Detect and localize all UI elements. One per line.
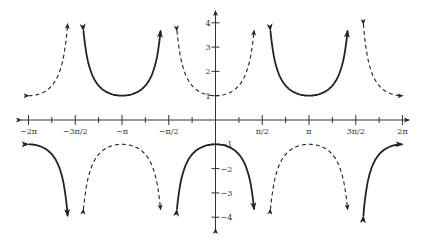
y-tick-label: −2 xyxy=(221,165,233,174)
x-tick-label: −π/2 xyxy=(159,127,179,136)
y-tick-label: −1 xyxy=(221,140,233,149)
x-tick-label: 3π/2 xyxy=(347,127,365,136)
neg-sec-branch-solid xyxy=(29,144,68,216)
sec-branch-dashed xyxy=(29,24,68,96)
x-tick-label: 2π xyxy=(397,127,407,136)
neg-sec-branch-solid xyxy=(270,31,347,96)
secant-graph: −2π−3π/2−π−π/2π/2π3π/22π4321−1−2−3−4 xyxy=(0,0,426,241)
y-tick-label: −3 xyxy=(221,189,233,198)
axes xyxy=(21,11,409,229)
neg-sec-branch-solid xyxy=(83,31,160,96)
x-tick-label: π/2 xyxy=(256,127,269,136)
neg-sec-branch-solid xyxy=(363,144,402,216)
sec-branch-dashed xyxy=(270,144,347,209)
x-tick-label: −3π/2 xyxy=(63,127,88,136)
x-tick-label: π xyxy=(306,127,311,136)
x-tick-label: −2π xyxy=(20,127,37,136)
x-tick-label: −π xyxy=(116,127,128,136)
sec-branch-dashed xyxy=(363,24,402,96)
y-tick-label: 3 xyxy=(205,43,210,52)
sec-branch-dashed xyxy=(83,144,160,209)
y-tick-label: −4 xyxy=(221,213,233,222)
y-tick-label: 4 xyxy=(205,19,210,28)
y-tick-label: 2 xyxy=(205,67,210,76)
y-tick-label: 1 xyxy=(205,92,210,101)
